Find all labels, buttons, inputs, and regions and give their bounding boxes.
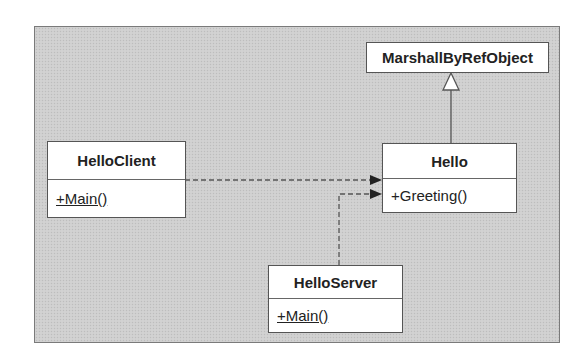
server-dependency-connector	[339, 189, 382, 265]
operation-main: +Main()	[277, 307, 328, 324]
class-name: Hello	[383, 144, 516, 178]
filled-arrowhead-icon	[370, 189, 382, 199]
class-hello[interactable]: Hello +Greeting()	[382, 143, 517, 213]
class-name: MarshallByRefObject	[367, 43, 548, 71]
class-helloserver[interactable]: HelloServer +Main()	[268, 265, 403, 333]
hollow-triangle-arrowhead-icon	[443, 73, 459, 90]
client-dependency-connector	[185, 175, 382, 185]
operations-compartment: +Main()	[269, 298, 402, 331]
operation-greeting: +Greeting()	[391, 187, 467, 204]
operations-compartment: +Main()	[48, 179, 185, 216]
class-marshallbyrefobject[interactable]: MarshallByRefObject	[366, 42, 549, 73]
operations-compartment: +Greeting()	[383, 178, 516, 211]
class-name: HelloClient	[48, 142, 185, 179]
class-helloclient[interactable]: HelloClient +Main()	[47, 141, 186, 218]
generalization-connector	[443, 73, 459, 143]
class-name: HelloServer	[269, 266, 402, 298]
operation-main: +Main()	[56, 190, 107, 207]
filled-arrowhead-icon	[370, 175, 382, 185]
